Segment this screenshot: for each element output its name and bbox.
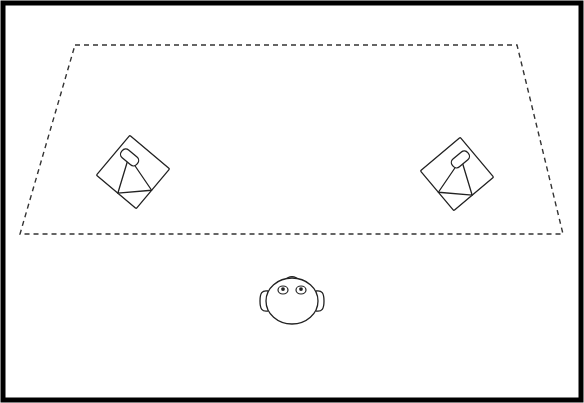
eye-left-icon [278,286,288,294]
figure-canvas [0,0,584,403]
stereo-setup-diagram [0,0,584,403]
head-outline [266,278,318,324]
eye-right-icon [296,286,306,294]
page-background [0,0,584,403]
